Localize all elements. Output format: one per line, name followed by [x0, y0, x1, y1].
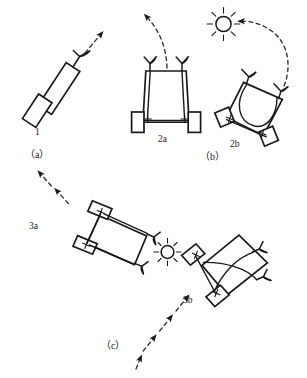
light-source-b [207, 8, 240, 41]
sun-icon-c-core [161, 246, 174, 259]
vehicle-3b-wheel-upper [182, 244, 205, 265]
vehicle-3a [73, 201, 160, 274]
vehicle-2a-path [147, 17, 168, 69]
vehicle-2a [132, 57, 201, 132]
vehicle-1-path [85, 34, 101, 53]
sun-icon-b-core [216, 16, 231, 31]
panel-c-label: （c） [101, 341, 125, 351]
figure-root: 1 （a） 2a 2b （b） 3a 3b （c） [0, 0, 307, 378]
sun-icon-c-rays [154, 238, 181, 265]
vehicle-3b-path [136, 297, 187, 369]
panel-a-group [22, 34, 101, 127]
vehicle-1-motor [22, 94, 52, 127]
vehicle-2b-label: 2b [230, 140, 240, 150]
vehicle-3b-label: 3b [183, 296, 193, 306]
sun-icon-b-rays [207, 8, 240, 41]
panel-b-group [132, 8, 288, 147]
vehicle-2a-wheel-left [132, 112, 144, 132]
panel-c-group [40, 173, 271, 369]
light-source-c [154, 238, 181, 265]
vehicle-2a-label: 2a [158, 135, 167, 145]
vehicle-2b [215, 69, 288, 146]
vehicle-2a-sensor-right [176, 57, 188, 71]
vehicle-3a-sensor-lower [135, 262, 148, 274]
vehicle-1 [22, 51, 89, 128]
vehicle-2a-wheel-right [188, 112, 200, 132]
vehicle-1-label: 1 [35, 128, 40, 138]
vehicle-1-sensor-stem [73, 57, 80, 68]
vehicle-3b [182, 235, 271, 306]
vehicle-3a-path [40, 173, 68, 203]
vehicle-2a-sensor-left [144, 57, 156, 71]
diagram-canvas [0, 0, 307, 378]
vehicle-3a-label: 3a [29, 222, 38, 232]
panel-b-label: （b） [200, 152, 225, 162]
panel-a-label: （a） [25, 150, 49, 160]
vehicle-3b-sensor-upper [252, 242, 266, 253]
